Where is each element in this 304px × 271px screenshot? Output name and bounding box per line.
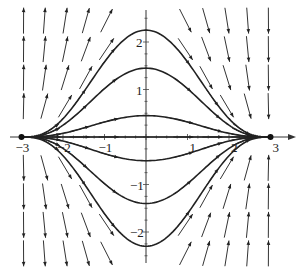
field-arrow (43, 240, 47, 266)
field-arrow (43, 36, 47, 62)
field-arrow (200, 185, 213, 208)
curve-arrow (101, 181, 117, 193)
curve-arrow (207, 90, 219, 106)
field-arrow (82, 8, 90, 33)
x-tick-label: 1 (190, 140, 197, 155)
x-axis-arrowhead-icon (288, 134, 296, 140)
field-arrow (22, 65, 26, 91)
field-arrow (62, 212, 68, 237)
curve-arrow (99, 135, 119, 139)
curve-arrow (177, 49, 189, 65)
field-arrow (246, 65, 251, 91)
field-arrow (41, 155, 48, 180)
curve-arrow (202, 135, 222, 139)
field-arrow (224, 212, 230, 237)
curve-arrow (101, 79, 116, 92)
field-arrow (180, 9, 192, 32)
field-arrow (22, 240, 26, 266)
field-arrow (43, 8, 47, 34)
field-arrow (80, 66, 93, 89)
field-arrow (267, 155, 271, 181)
field-arrow (81, 37, 90, 61)
field-arrow (61, 65, 69, 90)
curve-arrow (70, 126, 89, 132)
field-arrow (61, 184, 69, 209)
field-arrow (22, 155, 26, 181)
field-arrow (58, 157, 71, 179)
field-arrow (62, 36, 68, 61)
x-tick-label: −3 (16, 140, 30, 155)
curve-arrow (203, 142, 222, 148)
x-tick-label: 3 (273, 140, 280, 155)
field-arrow (267, 212, 271, 238)
curve-arrow (70, 135, 90, 139)
curve-arrow (70, 143, 89, 149)
field-arrow (101, 9, 113, 32)
field-arrow (203, 241, 211, 266)
field-arrow (200, 66, 213, 89)
curve-arrow (205, 155, 220, 168)
field-arrow (202, 37, 211, 61)
field-arrow (246, 212, 250, 238)
x-tick-label: −1 (99, 140, 113, 155)
field-arrow (267, 240, 271, 266)
curve-arrow (173, 135, 193, 139)
curve-arrow (74, 169, 85, 185)
field-arrow (224, 36, 230, 61)
field-arrow (41, 94, 48, 119)
field-arrow (246, 240, 250, 266)
field-arrow (22, 93, 26, 119)
field-arrow (225, 241, 230, 267)
field-arrow (178, 38, 192, 60)
curve-arrow (176, 79, 191, 92)
field-arrow (223, 65, 231, 90)
field-arrow (22, 183, 26, 209)
field-arrow (101, 242, 113, 265)
direction-field-plot: −3 −2 −1 1 2 3 2 1 −1 −2 (0, 0, 304, 271)
curve-arrow (203, 126, 222, 132)
field-arrow (22, 212, 26, 238)
field-arrow (246, 184, 251, 210)
field-arrow (220, 95, 233, 117)
curve-arrow (99, 118, 118, 124)
y-tick-label: −2 (130, 225, 144, 240)
curve-arrow (74, 90, 86, 106)
curve-arrow (72, 155, 87, 168)
field-arrow (244, 155, 251, 180)
x-tick-label: −2 (57, 140, 71, 155)
field-arrow (58, 95, 71, 117)
field-arrow (267, 93, 271, 119)
field-arrow (246, 8, 250, 34)
field-arrow (99, 38, 113, 60)
field-arrow (267, 183, 271, 209)
y-tick-label: −1 (130, 178, 144, 193)
y-tick-label: 2 (136, 35, 143, 50)
field-arrow (203, 8, 211, 33)
field-arrow (42, 65, 47, 91)
curve-arrow (102, 49, 114, 65)
curve-arrow (205, 105, 220, 118)
curve-arrow (72, 105, 87, 118)
x-tick-label: 2 (231, 140, 238, 155)
field-arrow (81, 213, 90, 237)
field-arrow (202, 213, 211, 237)
field-arrow (82, 241, 90, 266)
curve-arrow (207, 169, 218, 185)
field-arrow (63, 8, 68, 34)
field-arrow (244, 94, 251, 119)
field-arrow (22, 8, 26, 34)
field-arrow (43, 212, 47, 238)
y-tick-label: 1 (136, 83, 143, 98)
curve-arrow (177, 211, 189, 227)
field-arrow (246, 36, 250, 62)
field-arrow (220, 157, 233, 179)
field-arrow (42, 184, 47, 210)
field-arrow (223, 184, 231, 209)
field-arrow (225, 8, 230, 34)
field-arrow (267, 8, 271, 34)
field-arrow (267, 65, 271, 91)
curve-arrow (176, 181, 192, 193)
curve-arrow (174, 118, 193, 124)
field-arrow (267, 36, 271, 62)
field-arrow (180, 242, 192, 265)
